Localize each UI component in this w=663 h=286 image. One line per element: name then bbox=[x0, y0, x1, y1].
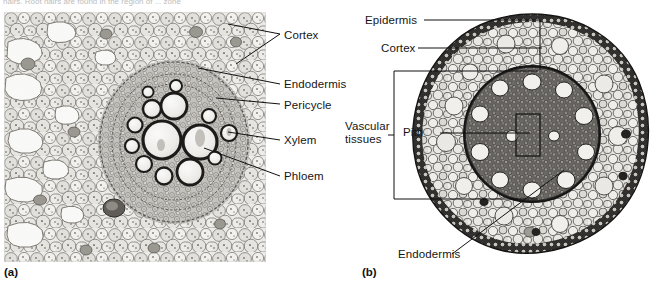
label-vascular-tissues-b: Vascular tissues bbox=[345, 120, 390, 145]
clipped-top-text: hairs. Root hairs are found in the regio… bbox=[3, 0, 333, 6]
leader-pith-b bbox=[440, 128, 532, 138]
label-epidermis-b: Epidermis bbox=[365, 14, 417, 27]
label-endodermis-b: Endodermis bbox=[398, 248, 460, 261]
label-pith-b: Pith bbox=[403, 126, 423, 139]
label-pericycle-a: Pericycle bbox=[284, 99, 332, 112]
leader-cortex-b bbox=[418, 42, 544, 54]
label-endodermis-a: Endodermis bbox=[284, 78, 346, 91]
label-cortex-a: Cortex bbox=[284, 29, 318, 42]
leader-phloem-a bbox=[202, 146, 282, 178]
label-xylem-a: Xylem bbox=[284, 134, 316, 147]
label-cortex-b: Cortex bbox=[381, 42, 415, 55]
figure-root-cross-sections: hairs. Root hairs are found in the regio… bbox=[0, 0, 663, 286]
leader-cortex-a bbox=[224, 22, 282, 68]
caption-panel-b: (b) bbox=[362, 266, 377, 278]
leader-endodermis-b bbox=[452, 168, 572, 258]
caption-panel-a: (a) bbox=[4, 266, 18, 278]
leader-endodermis-a bbox=[196, 66, 282, 90]
label-phloem-a: Phloem bbox=[284, 170, 324, 183]
leader-pericycle-a bbox=[214, 96, 282, 108]
leader-xylem-a bbox=[226, 130, 282, 144]
